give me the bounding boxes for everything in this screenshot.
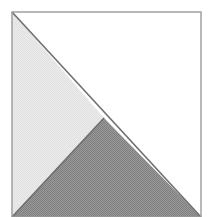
figure-container <box>0 0 211 217</box>
triangles-diagram <box>0 0 211 217</box>
